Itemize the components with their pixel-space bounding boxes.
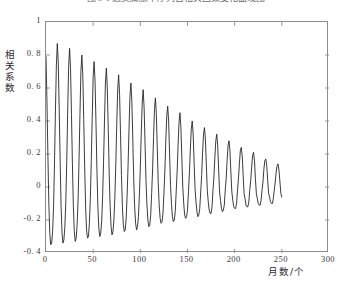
autocorrelation-plot (46, 22, 329, 253)
chart-figure: 图 5-1 通货膨胀率序列自相关函数变化曲线图 相关系数 月数/个 10. 80… (0, 0, 352, 292)
x-tick-label: 250 (261, 255, 301, 264)
figure-caption: 图 5-1 通货膨胀率序列自相关函数变化曲线图 (0, 0, 352, 3)
y-tick-label: 0. 8 (1, 49, 41, 58)
y-tick-label: 0. 6 (1, 82, 41, 91)
y-tick-label: 0 (1, 181, 41, 190)
y-tick-label: -0. 2 (1, 214, 41, 223)
x-tick-label: 50 (72, 255, 112, 264)
acf-line (46, 43, 282, 244)
plot-frame (45, 21, 328, 252)
x-tick-label: 150 (167, 255, 207, 264)
x-tick-label: 0 (25, 255, 65, 264)
y-tick-label: 1 (1, 16, 41, 25)
axis-ticks (46, 22, 329, 253)
x-axis-title: 月数/个 (268, 266, 305, 277)
x-tick-label: 300 (308, 255, 348, 264)
x-tick-label: 100 (119, 255, 159, 264)
y-tick-label: 0. 2 (1, 148, 41, 157)
y-tick-label: 0. 4 (1, 115, 41, 124)
x-tick-label: 200 (214, 255, 254, 264)
